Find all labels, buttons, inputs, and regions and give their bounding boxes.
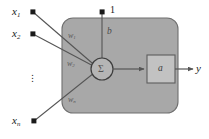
- output-label-y: y: [196, 63, 201, 74]
- neuron-diagram-figure: x1 x2 xn ... w1 w2 wn 1 b Σ a y: [0, 0, 209, 139]
- summation-symbol-label: Σ: [98, 64, 104, 74]
- input-label-x2: x2: [12, 28, 20, 40]
- weight-label-w2: w2: [67, 60, 75, 69]
- bias-weight-label: b: [107, 27, 112, 37]
- weight-label-w1: w1: [68, 32, 76, 41]
- input-ellipsis: ...: [31, 71, 34, 81]
- input-label-xn: xn: [12, 115, 20, 127]
- input-label-x1: x1: [12, 6, 20, 18]
- input-dot-bias: [100, 9, 105, 14]
- input-dot-x2: [30, 31, 35, 36]
- weight-label-wn: wn: [68, 96, 76, 105]
- activation-function-label: a: [158, 64, 163, 74]
- bias-input-label: 1: [110, 5, 115, 15]
- input-dot-xn: [31, 118, 36, 123]
- input-dot-x1: [30, 9, 35, 14]
